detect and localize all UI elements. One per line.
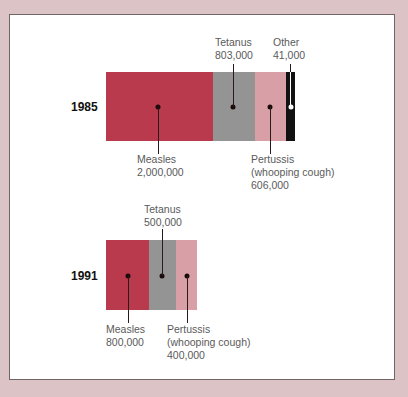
label-1985-pertussis: Pertussis (whooping cough) 606,000 bbox=[251, 153, 334, 192]
leader-1985-other bbox=[290, 72, 291, 107]
label-1985-other: Other 41,000 bbox=[273, 36, 305, 62]
leader-1985-other-top bbox=[290, 64, 291, 72]
bar-1991 bbox=[106, 240, 197, 310]
leader-1985-pertussis bbox=[270, 107, 271, 154]
label-1991-tetanus: Tetanus 500,000 bbox=[144, 203, 182, 229]
leader-1991-tetanus bbox=[162, 229, 163, 276]
year-label-1991: 1991 bbox=[71, 269, 98, 283]
leader-1991-pertussis bbox=[187, 276, 188, 323]
leader-1991-measles bbox=[128, 276, 129, 323]
year-label-1985: 1985 bbox=[71, 100, 98, 114]
label-1985-measles: Measles 2,000,000 bbox=[137, 153, 184, 179]
label-1985-tetanus: Tetanus 803,000 bbox=[215, 36, 253, 62]
label-1991-pertussis: Pertussis (whooping cough) 400,000 bbox=[167, 323, 250, 362]
leader-1985-measles bbox=[158, 107, 159, 154]
leader-1985-tetanus bbox=[233, 64, 234, 107]
label-1991-measles: Measles 800,000 bbox=[106, 323, 145, 349]
